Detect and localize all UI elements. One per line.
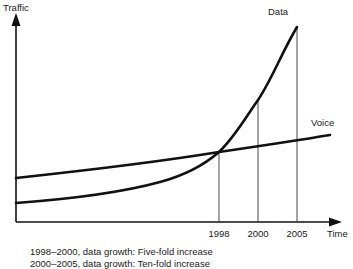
x-axis — [16, 218, 342, 227]
voice-curve — [16, 135, 330, 178]
caption-line-2: 2000–2005, data growth: Ten-fold increas… — [30, 258, 350, 269]
x-tick-label-2000: 2000 — [244, 228, 272, 239]
x-tick-label-1998: 1998 — [205, 228, 233, 239]
x-tick-label-2005: 2005 — [283, 228, 311, 239]
x-axis-label: Time — [327, 228, 348, 239]
series-label-voice: Voice — [311, 117, 334, 128]
caption-line-1: 1998–2000, data growth: Five-fold increa… — [30, 246, 350, 258]
y-axis — [12, 13, 21, 222]
y-axis-label: Traffic — [3, 2, 29, 13]
series-label-data: Data — [268, 6, 288, 17]
data-curve — [16, 27, 297, 203]
chart-caption: 1998–2000, data growth: Five-fold increa… — [30, 246, 350, 269]
